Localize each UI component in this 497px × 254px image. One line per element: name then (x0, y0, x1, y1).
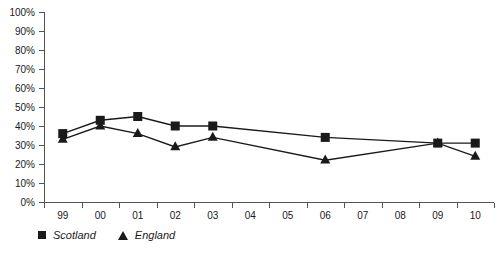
y-axis-tick-label: 60% (15, 83, 35, 94)
x-axis-tick (194, 203, 195, 208)
x-axis-tick-label: 05 (282, 210, 293, 221)
y-axis-tick (39, 164, 44, 165)
data-point-square (321, 133, 330, 142)
x-axis-tick (44, 203, 45, 208)
legend-label: Scotland (53, 229, 96, 241)
y-axis-tick-label: 0% (21, 197, 35, 208)
y-axis-tick-label: 20% (15, 159, 35, 170)
data-point-triangle (433, 138, 443, 147)
x-axis-tick-label: 99 (57, 210, 68, 221)
x-axis-tick (269, 203, 270, 208)
x-axis-tick (344, 203, 345, 208)
y-axis-tick-label: 50% (15, 102, 35, 113)
x-axis-tick (382, 203, 383, 208)
x-axis-tick (157, 203, 158, 208)
x-axis-tick-label: 03 (207, 210, 218, 221)
x-axis-tick (82, 203, 83, 208)
data-point-square (133, 112, 142, 121)
x-axis-tick (457, 203, 458, 208)
x-axis-tick-label: 04 (245, 210, 256, 221)
y-axis-labels: 0%10%20%30%40%50%60%70%80%90%100% (0, 0, 40, 210)
data-point-square (96, 116, 105, 125)
x-axis-tick-label: 09 (432, 210, 443, 221)
data-point-square (471, 139, 480, 148)
x-axis-tick-label: 08 (395, 210, 406, 221)
data-point-triangle (470, 151, 480, 160)
x-axis-tick (419, 203, 420, 208)
square-marker-icon (38, 231, 46, 239)
line-chart: 0%10%20%30%40%50%60%70%80%90%100% 990001… (0, 0, 497, 254)
y-axis-tick-label: 70% (15, 64, 35, 75)
data-point-square (433, 139, 442, 148)
data-point-triangle (133, 128, 143, 137)
y-axis-line (44, 12, 45, 203)
data-point-triangle (320, 155, 330, 164)
data-point-square (171, 122, 180, 131)
x-axis-tick-label: 01 (132, 210, 143, 221)
y-axis-tick (39, 31, 44, 32)
triangle-marker-icon (118, 231, 128, 240)
data-point-triangle (208, 132, 218, 141)
y-axis-tick (39, 183, 44, 184)
legend-item-england: England (118, 229, 175, 241)
data-point-square (208, 122, 217, 131)
x-axis-tick-label: 06 (320, 210, 331, 221)
y-axis-tick (39, 88, 44, 89)
y-axis-tick-label: 90% (15, 26, 35, 37)
y-axis-tick-label: 10% (15, 178, 35, 189)
y-axis-tick-label: 80% (15, 45, 35, 56)
data-point-triangle (58, 134, 68, 143)
y-axis-tick (39, 50, 44, 51)
x-axis-tick-label: 00 (95, 210, 106, 221)
x-axis-tick-label: 10 (470, 210, 481, 221)
y-axis-tick (39, 126, 44, 127)
x-axis-tick (119, 203, 120, 208)
data-point-triangle (170, 141, 180, 150)
x-axis-tick (232, 203, 233, 208)
series-line-england (63, 126, 476, 160)
x-axis-tick-label: 02 (170, 210, 181, 221)
x-axis-tick (307, 203, 308, 208)
data-point-square (58, 129, 67, 138)
x-axis-tick (494, 203, 495, 208)
y-axis-tick (39, 145, 44, 146)
y-axis-tick-label: 40% (15, 121, 35, 132)
legend-label: England (135, 229, 175, 241)
x-axis-tick-label: 07 (357, 210, 368, 221)
data-point-triangle (95, 120, 105, 129)
legend-item-scotland: Scotland (38, 229, 96, 241)
y-axis-tick-label: 30% (15, 140, 35, 151)
chart-legend: ScotlandEngland (38, 229, 175, 241)
y-axis-tick (39, 12, 44, 13)
y-axis-tick-label: 100% (9, 7, 35, 18)
series-line-scotland (63, 117, 476, 144)
y-axis-tick (39, 107, 44, 108)
y-axis-tick (39, 69, 44, 70)
